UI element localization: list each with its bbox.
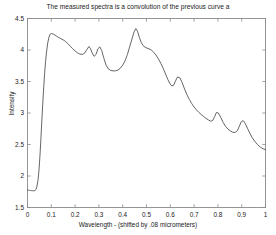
x-tick-label: 1 — [264, 211, 268, 218]
x-tick-label: 0.6 — [166, 211, 175, 218]
axes-frame — [28, 19, 266, 208]
y-tick-label: 4 — [20, 46, 24, 53]
x-tick-label: 0.3 — [94, 211, 103, 218]
x-tick-label: 0.4 — [118, 211, 127, 218]
x-tick-label: 0.8 — [213, 211, 222, 218]
y-tick-label: 2.5 — [15, 141, 24, 148]
x-tick-label: 0.5 — [142, 211, 151, 218]
y-tick-label: 4.5 — [15, 15, 24, 22]
x-tick-label: 0.2 — [71, 211, 80, 218]
y-tick-label: 2 — [20, 172, 24, 179]
x-tick-label: 0.9 — [237, 211, 246, 218]
chart-figure: The measured spectra is a convolution of… — [0, 0, 276, 235]
y-tick-label: 3 — [20, 109, 24, 116]
y-tick-label: 1.5 — [15, 204, 24, 211]
x-tick-label: 0 — [26, 211, 30, 218]
plot-area: 00.10.20.30.40.50.60.70.80.911.522.533.5… — [0, 0, 276, 235]
x-tick-label: 0.1 — [47, 211, 56, 218]
series-line-0 — [28, 29, 266, 191]
x-tick-label: 0.7 — [190, 211, 199, 218]
y-tick-label: 3.5 — [15, 78, 24, 85]
